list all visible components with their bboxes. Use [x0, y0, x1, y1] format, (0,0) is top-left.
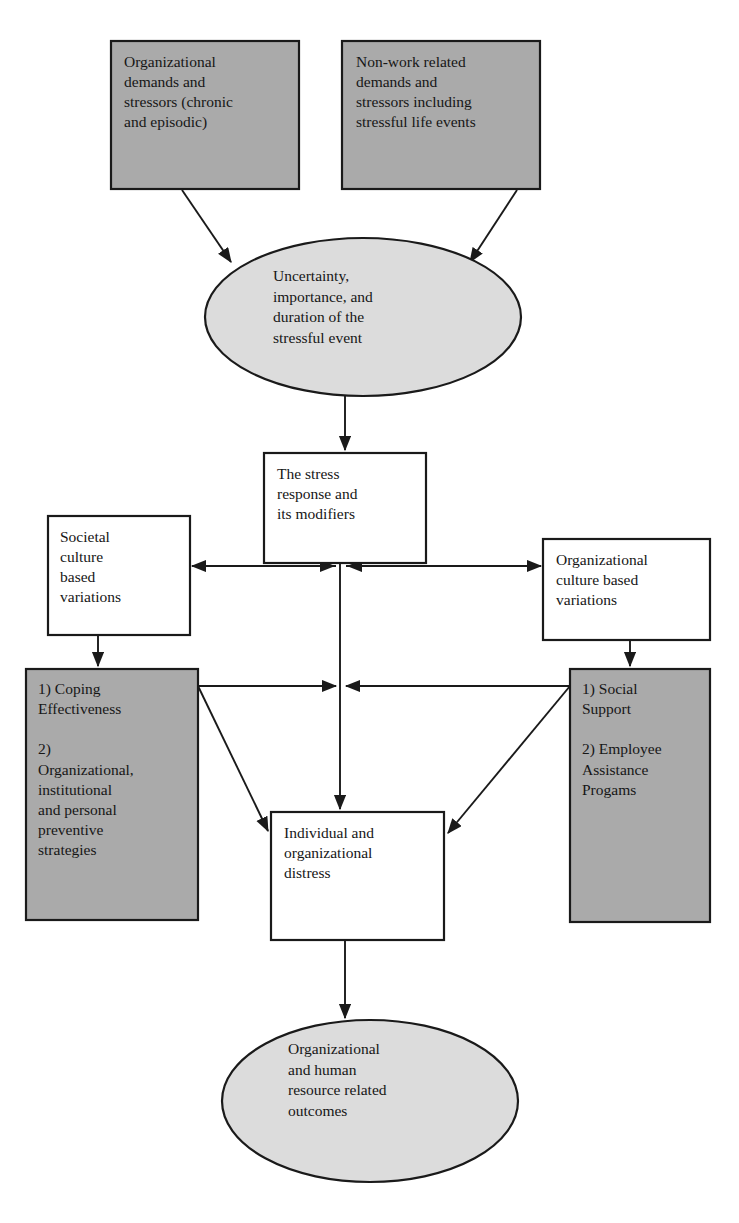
- node-label-societal-culture: Societal culture based variations: [60, 527, 190, 608]
- node-label-organizational-culture: Organizational culture based variations: [556, 550, 712, 610]
- node-label-stress-response: The stress response and its modifiers: [277, 464, 427, 524]
- node-label-non-work-demands: Non-work related demands and stressors i…: [356, 52, 546, 133]
- edge-social-to-distress: [448, 686, 570, 833]
- node-layer: [26, 41, 710, 1182]
- edge-coping-to-distress: [198, 686, 268, 831]
- node-label-coping-effectiveness: 1) Coping Effectiveness 2) Organizationa…: [38, 679, 198, 860]
- node-label-social-support: 1) Social Support 2) Employee Assistance…: [582, 679, 714, 800]
- node-label-outcomes: Organizational and human resource relate…: [288, 1039, 468, 1121]
- node-label-individual-distress: Individual and organizational distress: [284, 823, 448, 883]
- node-label-uncertainty: Uncertainty, importance, and duration of…: [273, 266, 463, 348]
- edge-nonwork-to-uncertainty: [470, 190, 517, 262]
- node-label-organizational-demands: Organizational demands and stressors (ch…: [124, 52, 302, 133]
- edge-orgdemands-to-uncertainty: [182, 190, 231, 262]
- flowchart-diagram: Organizational demands and stressors (ch…: [0, 0, 739, 1223]
